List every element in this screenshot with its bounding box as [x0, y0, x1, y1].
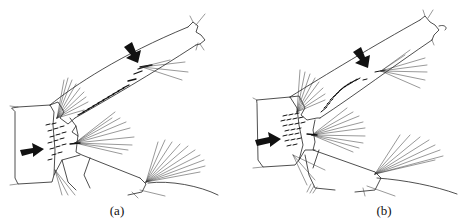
figure-panel-a: (a): [0, 0, 235, 224]
appendage-drawing-a: [0, 0, 235, 224]
panel-label-a: (a): [97, 203, 137, 219]
panel-label-b: (b): [364, 203, 404, 219]
appendage-drawing-b: [235, 0, 469, 224]
arrow-left-a: [20, 143, 44, 157]
arrow-upper-a: [124, 42, 141, 63]
figure-panel-b: (b): [235, 0, 469, 224]
arrow-left-b: [255, 132, 281, 147]
